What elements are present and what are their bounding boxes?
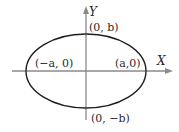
point-label-right: (a,0) [115, 58, 141, 69]
vertex-bottom-dot [85, 107, 87, 109]
x-axis-arrow-icon [165, 68, 173, 74]
point-label-left: (−a, 0) [35, 58, 73, 69]
y-axis-label: Y [89, 6, 97, 18]
vertex-top-dot [85, 33, 87, 35]
point-label-bottom: (0, −b) [91, 113, 130, 124]
x-axis-label: X [157, 55, 166, 67]
vertex-left-dot [25, 70, 27, 72]
point-label-top: (0, b) [89, 22, 119, 33]
ellipse-diagram [0, 0, 179, 132]
vertex-right-dot [145, 70, 147, 72]
